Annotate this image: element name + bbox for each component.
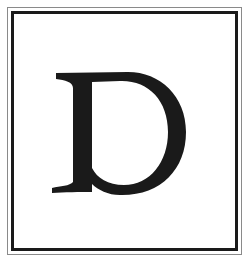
letter-d-glyph xyxy=(0,0,250,265)
